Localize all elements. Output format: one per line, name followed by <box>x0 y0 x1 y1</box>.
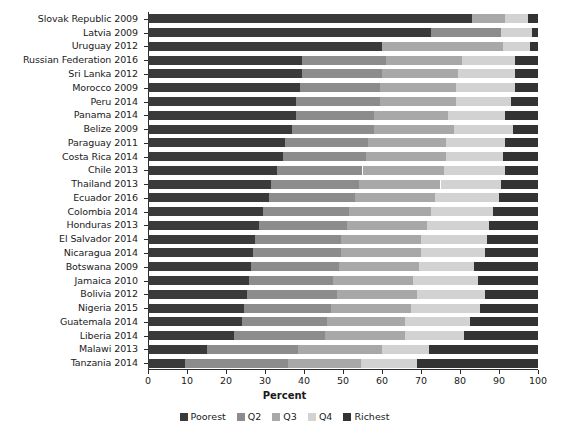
y-axis-tick-label: Malawi 2013 <box>79 344 138 354</box>
bar-segment-q3 <box>327 317 405 326</box>
bar-row <box>148 276 538 285</box>
legend-item-q4[interactable]: Q4 <box>308 411 333 422</box>
x-axis-title: Percent <box>0 390 569 401</box>
bar-row <box>148 207 538 216</box>
x-axis-tick <box>460 370 461 374</box>
bar-segment-q4 <box>501 28 532 37</box>
y-axis-tick-label: Chile 2013 <box>88 165 138 175</box>
bar-segment-q2 <box>249 276 333 285</box>
x-axis-tick-label: 60 <box>376 375 388 386</box>
bar-segment-richest <box>528 14 538 23</box>
x-axis-tick <box>187 370 188 374</box>
legend-label: Q4 <box>319 411 333 422</box>
x-axis-tick <box>499 370 500 374</box>
bar-segment-poorest <box>148 221 259 230</box>
bar-segment-q3 <box>368 138 446 147</box>
bar-segment-richest <box>515 83 538 92</box>
bar-segment-q3 <box>325 331 405 340</box>
bar-segment-q4 <box>382 345 429 354</box>
y-axis-tick-label: Costa Rica 2014 <box>62 152 138 162</box>
bar-segment-poorest <box>148 56 302 65</box>
y-axis-tick-label: Colombia 2014 <box>67 207 138 217</box>
x-axis-tick <box>148 370 149 374</box>
bar-segment-q3 <box>374 125 454 134</box>
bar-row <box>148 14 538 23</box>
bar-segment-richest <box>480 304 539 313</box>
chart-figure: Slovak Republic 2009Latvia 2009Uruguay 2… <box>0 0 569 438</box>
bar-segment-q3 <box>288 359 360 368</box>
x-axis-tick-label: 0 <box>145 375 151 386</box>
bar-segment-q4 <box>446 152 503 161</box>
bar-segment-q2 <box>296 111 374 120</box>
x-axis-tick-label: 40 <box>298 375 310 386</box>
x-axis-tick <box>304 370 305 374</box>
y-axis-tick-label: Nigeria 2015 <box>78 303 138 313</box>
bar-segment-richest <box>505 138 538 147</box>
y-axis-tick-label: Liberia 2014 <box>80 331 138 341</box>
bar-segment-q3 <box>339 262 419 271</box>
y-axis-tick-label: Belize 2009 <box>83 124 138 134</box>
bar-segment-richest <box>485 248 538 257</box>
legend-swatch-icon <box>272 413 280 421</box>
bar-segment-richest <box>532 28 538 37</box>
bar-segment-richest <box>505 166 538 175</box>
bar-row <box>148 83 538 92</box>
legend-swatch-icon <box>308 413 316 421</box>
bar-segment-q3 <box>386 56 462 65</box>
axis-frame <box>148 12 538 370</box>
bar-segment-q4 <box>405 331 464 340</box>
x-axis-tick-label: 80 <box>454 375 466 386</box>
bar-segment-poorest <box>148 359 185 368</box>
legend-label: Richest <box>354 411 389 422</box>
bar-segment-q3 <box>359 180 441 189</box>
bar-segment-poorest <box>148 152 283 161</box>
bar-segment-q2 <box>300 83 380 92</box>
y-axis-tick-label: Uruguay 2012 <box>72 41 138 51</box>
bar-segment-q4 <box>444 166 504 175</box>
bar-segment-q4 <box>458 69 515 78</box>
bar-row <box>148 331 538 340</box>
y-axis-tick-label: Nicaragua 2014 <box>64 248 138 258</box>
legend-swatch-icon <box>180 413 188 421</box>
bar-segment-q4 <box>446 138 505 147</box>
bar-segment-poorest <box>148 180 271 189</box>
bar-segment-richest <box>470 317 538 326</box>
bar-segment-q2 <box>251 262 339 271</box>
bar-segment-poorest <box>148 304 244 313</box>
y-axis-tick-label: Guatemala 2014 <box>60 317 138 327</box>
bar-segment-q2 <box>302 69 382 78</box>
bar-segment-q2 <box>185 359 288 368</box>
bar-segment-poorest <box>148 42 382 51</box>
chart-legend: PoorestQ2Q3Q4Richest <box>0 411 569 422</box>
bar-segment-poorest <box>148 138 285 147</box>
legend-item-q3[interactable]: Q3 <box>272 411 297 422</box>
bar-segment-q4 <box>431 207 493 216</box>
legend-item-richest[interactable]: Richest <box>343 411 389 422</box>
bar-segment-q2 <box>253 248 341 257</box>
bar-segment-q2 <box>271 180 359 189</box>
bar-segment-richest <box>478 276 538 285</box>
bar-segment-poorest <box>148 207 263 216</box>
bar-segment-poorest <box>148 290 247 299</box>
bar-segment-q4 <box>454 125 513 134</box>
legend-item-q2[interactable]: Q2 <box>237 411 262 422</box>
legend-item-poorest[interactable]: Poorest <box>180 411 226 422</box>
bar-segment-q3 <box>331 304 411 313</box>
bar-segment-q2 <box>234 331 326 340</box>
bar-segment-q2 <box>207 345 299 354</box>
y-axis-tick-label: Thailand 2013 <box>71 179 138 189</box>
x-axis-tick-label: 100 <box>529 375 547 386</box>
bar-segment-richest <box>530 42 538 51</box>
bar-segment-q2 <box>244 304 332 313</box>
bar-row <box>148 262 538 271</box>
bar-segment-q4 <box>419 262 474 271</box>
bar-segment-q3 <box>341 248 421 257</box>
y-axis-tick-label: Morocco 2009 <box>72 83 138 93</box>
x-axis-tick <box>265 370 266 374</box>
y-axis-tick-label: Ecuador 2016 <box>73 193 138 203</box>
bar-row <box>148 193 538 202</box>
bar-segment-richest <box>511 97 538 106</box>
bar-segment-q3 <box>341 235 421 244</box>
bar-segment-q2 <box>242 317 328 326</box>
bar-row <box>148 290 538 299</box>
